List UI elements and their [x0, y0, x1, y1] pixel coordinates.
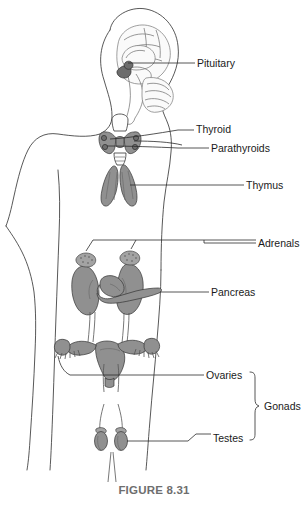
brain-sagittal-section — [117, 25, 173, 124]
leader-adrenals-branch — [131, 240, 136, 249]
adrenal-glands — [76, 251, 140, 267]
figure-caption: FIGURE 8.31 — [118, 484, 190, 496]
label-ovaries: Ovaries — [206, 369, 242, 381]
figure-container: Pituitary Thyroid Parathyroids Thymus Ad… — [0, 0, 308, 507]
gonads-bracket — [250, 372, 259, 440]
label-thyroid: Thyroid — [196, 123, 231, 135]
label-adrenals: Adrenals — [258, 237, 299, 249]
leader-lines — [58, 63, 256, 441]
label-pituitary: Pituitary — [197, 57, 236, 69]
ovaries-uterus — [54, 338, 159, 387]
endocrine-diagram: Pituitary Thyroid Parathyroids Thymus Ad… — [0, 0, 308, 507]
label-gonads: Gonads — [264, 400, 301, 412]
leader-testes — [127, 434, 211, 441]
thymus-gland — [101, 165, 137, 206]
label-testes: Testes — [213, 432, 243, 444]
label-thymus: Thymus — [246, 179, 283, 191]
leader-parathyroids-2 — [134, 141, 182, 145]
label-pancreas: Pancreas — [211, 286, 255, 298]
leader-adrenals — [86, 240, 256, 251]
label-parathyroids: Parathyroids — [211, 142, 270, 154]
